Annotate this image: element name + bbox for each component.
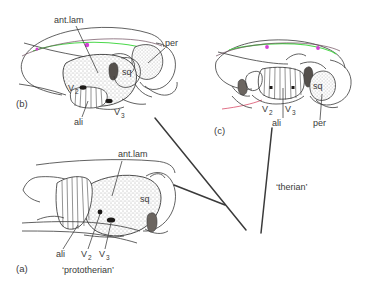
label-ali-b: ali [74, 117, 83, 127]
label-sq-a: sq [140, 194, 150, 204]
label-per-b: per [165, 38, 178, 48]
svg-text:2: 2 [269, 109, 273, 116]
label-ali-a: ali [56, 249, 65, 259]
label-ali-c: ali [272, 118, 281, 128]
svg-text:V: V [285, 104, 291, 114]
caption-prototherian: ‘prototherian’ [62, 265, 114, 275]
foramen-v3-b [105, 99, 112, 103]
background [0, 0, 371, 290]
label-sq-c: sq [313, 81, 323, 91]
figure-canvas: (b) ant.lam per sq ali V 2 V 3 [0, 0, 371, 290]
svg-text:V: V [81, 249, 87, 259]
label-per-c: per [313, 118, 326, 128]
foramen-v3-a [107, 217, 115, 222]
label-sq-b: sq [122, 67, 132, 77]
foramen-v2-c [270, 86, 273, 89]
caption-therian: ‘therian’ [276, 182, 308, 192]
foramen-v2-a [98, 210, 103, 215]
svg-text:2: 2 [88, 254, 92, 261]
svg-text:2: 2 [75, 88, 79, 95]
dark-slot-a [147, 213, 157, 232]
svg-text:V: V [114, 107, 120, 117]
foramen-v3-c [292, 86, 295, 89]
svg-text:3: 3 [292, 109, 296, 116]
svg-text:3: 3 [106, 254, 110, 261]
alisphenoid-c [258, 67, 304, 100]
magenta-marker-c-left [265, 45, 269, 49]
magenta-marker-b-left [36, 48, 39, 51]
panel-c-id: (c) [214, 125, 225, 136]
panel-a-id: (a) [16, 263, 28, 274]
label-ant-lam-b: ant.lam [54, 15, 84, 25]
svg-text:V: V [262, 104, 268, 114]
label-ant-lam-a: ant.lam [118, 149, 148, 159]
svg-text:V: V [99, 249, 105, 259]
svg-text:3: 3 [121, 112, 125, 119]
svg-text:V: V [68, 83, 74, 93]
panel-b-id: (b) [16, 98, 28, 109]
magenta-marker-c-right [316, 46, 320, 50]
foramen-v2-b [80, 85, 87, 89]
squamosal-slot-b [109, 63, 118, 80]
